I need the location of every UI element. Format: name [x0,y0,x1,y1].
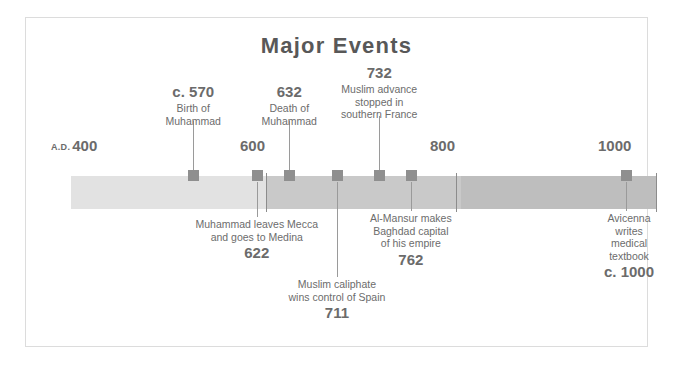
leader-line-c570 [193,121,194,170]
era-prefix: A.D. [51,142,70,152]
event-year: 732 [341,64,417,82]
event-description: Muhammad leaves Meccaand goes to Medina [196,218,319,243]
leader-line-622 [257,182,258,217]
event-year: c. 570 [166,83,221,101]
axis-label-value: 800 [430,137,455,154]
event-marker-762 [406,170,417,181]
event-marker-632 [284,170,295,181]
event-description: Muslim caliphatewins control of Spain [289,278,386,303]
bar-segment-600-800 [266,176,461,209]
axis-label-400: A.D.400 [51,137,97,154]
axis-label-value: 600 [240,137,265,154]
bar-segment-400-600 [71,176,266,209]
event-marker-622 [252,170,263,181]
event-year: 632 [262,83,317,101]
event-marker-732 [374,170,385,181]
page-title: Major Events [26,33,647,59]
axis-label-800: 800 [430,137,455,154]
axis-label-value: 400 [72,137,97,154]
event-label-732: 732Muslim advancestopped insouthern Fran… [341,64,417,121]
event-label-632: 632Death ofMuhammad [262,83,317,127]
leader-line-c1000 [626,182,627,211]
axis-label-1000: 1000 [598,137,631,154]
event-marker-711 [332,170,343,181]
event-year: 711 [289,304,386,322]
event-label-711: Muslim caliphatewins control of Spain711 [289,278,386,322]
leader-line-632 [289,121,290,170]
event-description: Muslim advancestopped insouthern France [341,83,417,121]
leader-line-711 [337,182,338,277]
event-description: Birth ofMuhammad [166,102,221,127]
leader-line-762 [411,182,412,211]
event-label-622: Muhammad leaves Meccaand goes to Medina6… [196,218,319,262]
leader-line-732 [379,116,380,170]
event-description: Death ofMuhammad [262,102,317,127]
event-year: 762 [370,251,452,269]
axis-label-600: 600 [240,137,265,154]
event-year: 622 [196,244,319,262]
event-label-c570: c. 570Birth ofMuhammad [166,83,221,127]
diagram-frame: Major Events A.D.4006008001000 c. 570Bir… [25,17,648,347]
event-description: Avicennawritesmedicaltextbook [604,212,654,262]
axis-tick-600 [266,173,267,212]
timeline-bar [71,176,656,209]
event-marker-c1000 [621,170,632,181]
event-description: Al-Mansur makesBaghdad capitalof his emp… [370,212,452,250]
event-label-762: Al-Mansur makesBaghdad capitalof his emp… [370,212,452,269]
axis-label-value: 1000 [598,137,631,154]
event-year: c. 1000 [604,263,654,281]
axis-tick-1000 [656,173,657,212]
event-marker-c570 [188,170,199,181]
axis-tick-800 [456,173,457,212]
event-label-c1000: Avicennawritesmedicaltextbookc. 1000 [604,212,654,281]
